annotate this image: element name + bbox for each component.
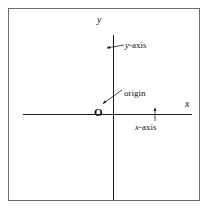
figure-frame bbox=[8, 8, 200, 201]
x-axis-letter: x bbox=[185, 99, 189, 109]
coordinate-plane-figure: y x O y-axis origin x-axis bbox=[0, 0, 207, 211]
x-axis-annotation-label: x-axis bbox=[135, 123, 157, 132]
y-axis-letter: y bbox=[97, 15, 101, 25]
y-axis-annotation-label: y-axis bbox=[125, 41, 147, 50]
y-axis-annotation-rest: -axis bbox=[129, 40, 147, 50]
origin-point-letter: O bbox=[94, 107, 103, 118]
x-axis-line bbox=[23, 114, 192, 115]
y-axis-line bbox=[113, 35, 114, 200]
origin-annotation-label: origin bbox=[124, 89, 146, 98]
x-axis-annotation-rest: -axis bbox=[139, 122, 157, 132]
